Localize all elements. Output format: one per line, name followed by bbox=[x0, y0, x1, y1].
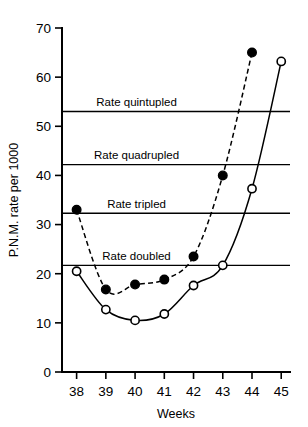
data-point-open-circle bbox=[73, 267, 81, 275]
x-axis-tick-label: 41 bbox=[157, 384, 172, 399]
y-axis-tick-label: 60 bbox=[36, 70, 51, 85]
x-axis-tick-label: 39 bbox=[98, 384, 113, 399]
y-axis-title: P.N.M. rate per 1000 bbox=[7, 143, 21, 257]
data-point-filled-circle bbox=[131, 280, 140, 289]
x-axis-tick-label: 44 bbox=[244, 384, 260, 399]
reference-line-label: Rate tripled bbox=[107, 198, 166, 210]
data-point-filled-circle bbox=[160, 275, 169, 284]
y-axis-tick-label: 10 bbox=[36, 316, 51, 331]
reference-line-label: Rate quintupled bbox=[96, 96, 177, 108]
y-axis-tick-label: 30 bbox=[36, 217, 51, 232]
pnm-rate-line-chart: 010203040506070 3839404142434445 Rate do… bbox=[0, 0, 308, 427]
data-point-open-circle bbox=[189, 281, 197, 289]
reference-line-label: Rate doubled bbox=[102, 250, 170, 262]
y-axis-tick-label: 0 bbox=[43, 365, 51, 380]
y-axis-tick-label: 40 bbox=[36, 168, 51, 183]
y-axis-tick-label: 50 bbox=[36, 119, 51, 134]
chart-container: 010203040506070 3839404142434445 Rate do… bbox=[0, 0, 308, 427]
x-axis-tick-label: 40 bbox=[128, 384, 143, 399]
data-point-open-circle bbox=[277, 57, 285, 65]
reference-line-label: Rate quadrupled bbox=[94, 149, 179, 161]
y-axis-tick-label: 70 bbox=[36, 21, 51, 36]
y-axis-tick-label: 20 bbox=[36, 267, 51, 282]
data-point-filled-circle bbox=[218, 171, 227, 180]
data-point-open-circle bbox=[102, 305, 110, 313]
data-point-open-circle bbox=[219, 261, 227, 269]
x-axis-tick-label: 42 bbox=[186, 384, 201, 399]
x-axis-title: Weeks bbox=[157, 407, 195, 421]
x-axis-tick-label: 43 bbox=[215, 384, 230, 399]
data-point-filled-circle bbox=[102, 285, 111, 294]
data-point-filled-circle bbox=[248, 48, 257, 57]
data-point-filled-circle bbox=[189, 252, 198, 261]
data-point-open-circle bbox=[131, 316, 139, 324]
data-point-filled-circle bbox=[72, 206, 81, 215]
x-axis-tick-label: 38 bbox=[69, 384, 84, 399]
data-point-open-circle bbox=[248, 185, 256, 193]
data-point-open-circle bbox=[160, 310, 168, 318]
x-axis-tick-label: 45 bbox=[274, 384, 289, 399]
